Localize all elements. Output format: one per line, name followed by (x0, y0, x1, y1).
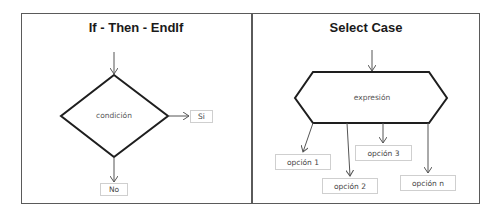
condition-label: condición (84, 111, 144, 120)
option-3-box: opción 3 (355, 145, 412, 161)
no-box: No (100, 183, 128, 196)
option-n-box: opción n (400, 175, 456, 191)
si-box: Si (190, 110, 213, 123)
option2-arrow (347, 123, 350, 176)
option-1-box: opción 1 (275, 154, 331, 170)
expression-label: expresión (340, 93, 404, 102)
option-2-box: opción 2 (322, 178, 378, 194)
option1-arrow (303, 123, 313, 152)
